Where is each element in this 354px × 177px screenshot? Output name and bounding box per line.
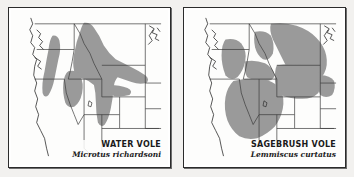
range-map-figure: WATER VOLE Microtus richardsoni: [0, 0, 354, 177]
water-vole-panel: WATER VOLE Microtus richardsoni: [8, 7, 171, 168]
sagebrush-vole-common-name: SAGEBRUSH VOLE: [251, 141, 336, 150]
sagebrush-vole-caption: SAGEBRUSH VOLE Lemmiscus curtatus: [247, 140, 338, 160]
sagebrush-vole-map-canvas: SAGEBRUSH VOLE Lemmiscus curtatus: [186, 10, 343, 165]
sagebrush-vole-scientific-name: Lemmiscus curtatus: [251, 151, 336, 159]
sagebrush-vole-panel: SAGEBRUSH VOLE Lemmiscus curtatus: [183, 7, 346, 168]
water-vole-map-canvas: WATER VOLE Microtus richardsoni: [11, 10, 168, 165]
water-vole-caption: WATER VOLE Microtus richardsoni: [68, 140, 163, 160]
water-vole-scientific-name: Microtus richardsoni: [72, 151, 161, 159]
water-vole-common-name: WATER VOLE: [72, 141, 161, 150]
